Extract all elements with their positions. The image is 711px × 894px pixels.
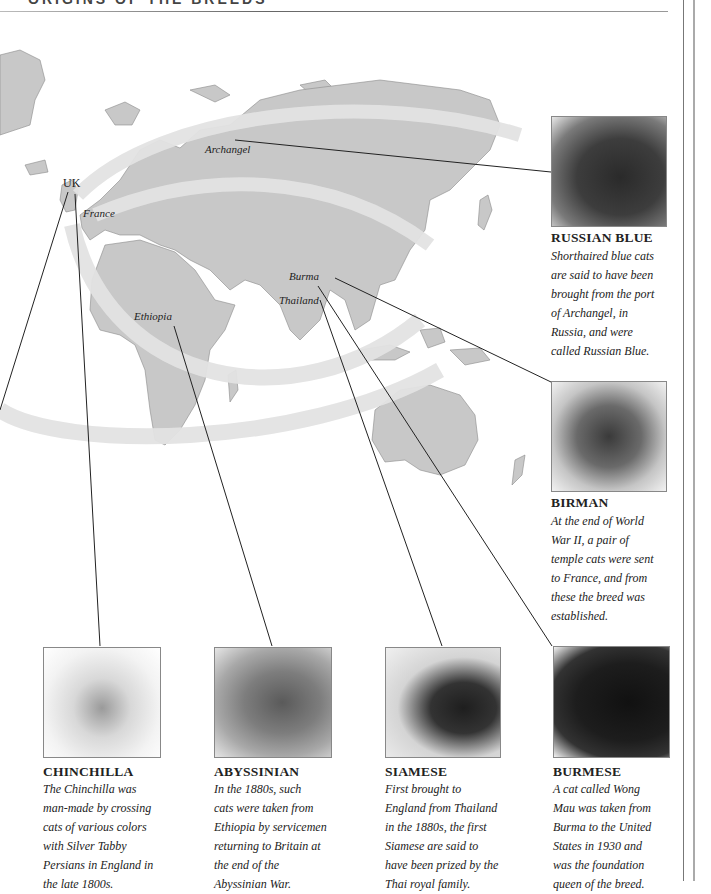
breed-name: BURMESE — [553, 764, 621, 780]
breed-name: SIAMESE — [385, 764, 447, 780]
siamese-photo — [385, 647, 501, 758]
chinchilla-photo — [43, 647, 161, 758]
breed-name: ABYSSINIAN — [214, 764, 299, 780]
page-title: ORIGINS OF THE BREEDS — [28, 0, 268, 7]
breed-name: BIRMAN — [551, 495, 608, 511]
breed-description: In the 1880s, such cats were taken from … — [214, 780, 327, 894]
page-border-outer — [693, 0, 695, 881]
breed-description: First brought to England from Thailand i… — [385, 780, 498, 894]
breed-description: Shorthaired blue cats are said to have b… — [551, 247, 654, 361]
page-border-inner — [683, 0, 684, 881]
abyssinian-photo — [214, 647, 332, 758]
breed-name: CHINCHILLA — [43, 764, 134, 780]
breed-name: RUSSIAN BLUE — [551, 230, 653, 246]
map-label-ethiopia: Ethiopia — [134, 310, 172, 322]
birman-photo — [551, 381, 667, 492]
map-label-france: France — [83, 207, 115, 219]
map-label-archangel: Archangel — [205, 143, 250, 155]
world-map — [0, 30, 640, 530]
breed-description: At the end of World War II, a pair of te… — [551, 512, 654, 626]
breed-description: A cat called Wong Mau was taken from Bur… — [553, 780, 651, 894]
header-rule — [0, 11, 668, 12]
burmese-photo — [553, 646, 670, 758]
map-label-burma: Burma — [289, 270, 319, 282]
map-graphic — [0, 30, 640, 530]
russian-blue-photo — [551, 116, 667, 227]
map-label-thailand: Thailand — [279, 294, 319, 306]
map-label-uk: UK — [63, 176, 80, 191]
breed-description: The Chinchilla was man-made by crossing … — [43, 780, 153, 894]
